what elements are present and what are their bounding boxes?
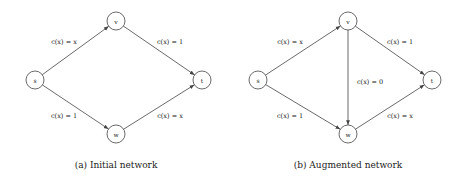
node-label: v	[113, 18, 118, 25]
diagram-initial: c(x) = xc(x) = 1c(x) = 1c(x) = xsvwt(a) …	[26, 12, 211, 170]
edge-label-v-t: c(x) = 1	[387, 38, 413, 46]
node-t: t	[423, 71, 441, 89]
node-w: w	[107, 125, 125, 143]
edge-v-t: c(x) = 1	[123, 26, 194, 75]
node-v: v	[107, 12, 125, 30]
edge-arrow	[42, 26, 108, 74]
network-diagrams: c(x) = xc(x) = 1c(x) = 1c(x) = xsvwt(a) …	[0, 0, 465, 186]
node-label: v	[345, 18, 350, 25]
node-s: s	[249, 71, 267, 89]
edge-arrow	[266, 85, 341, 130]
edge-label-s-w: c(x) = 1	[277, 112, 303, 120]
edge-arrow	[123, 26, 194, 75]
edge-label-s-v: c(x) = x	[51, 38, 77, 46]
edge-arrow	[356, 85, 425, 129]
edge-s-v: c(x) = x	[266, 26, 341, 75]
edge-v-w: c(x) = 0	[348, 30, 383, 125]
edge-w-t: c(x) = x	[124, 85, 195, 129]
edge-s-w: c(x) = 1	[266, 85, 341, 130]
caption-initial: (a) Initial network	[75, 160, 158, 170]
node-label: s	[33, 77, 36, 84]
edge-arrow	[355, 26, 424, 75]
edge-label-v-w: c(x) = 0	[357, 78, 383, 86]
edge-label-v-t: c(x) = 1	[157, 38, 183, 46]
edge-v-t: c(x) = 1	[355, 26, 424, 75]
node-label: w	[345, 131, 351, 138]
node-s: s	[26, 71, 44, 89]
node-v: v	[339, 12, 357, 30]
node-w: w	[339, 125, 357, 143]
edge-label-s-v: c(x) = x	[277, 38, 303, 46]
node-label: s	[256, 77, 259, 84]
diagram-augmented: c(x) = xc(x) = 1c(x) = 0c(x) = 1c(x) = x…	[249, 12, 441, 170]
node-t: t	[193, 71, 211, 89]
edge-label-w-t: c(x) = x	[387, 112, 413, 120]
edge-arrow	[42, 85, 108, 129]
edge-s-w: c(x) = 1	[42, 85, 108, 129]
node-label: w	[113, 131, 119, 138]
edge-s-v: c(x) = x	[42, 26, 108, 74]
edge-label-s-w: c(x) = 1	[51, 112, 77, 120]
edge-arrow	[124, 85, 195, 129]
edge-label-w-t: c(x) = x	[157, 112, 183, 120]
caption-augmented: (b) Augmented network	[294, 160, 403, 170]
edge-w-t: c(x) = x	[356, 85, 425, 129]
edge-arrow	[266, 26, 341, 75]
